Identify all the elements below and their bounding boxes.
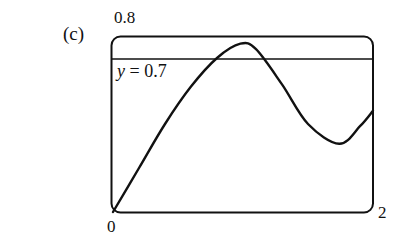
plot-area [0,0,398,236]
viewing-window-frame [112,37,374,213]
function-curve [113,43,373,212]
